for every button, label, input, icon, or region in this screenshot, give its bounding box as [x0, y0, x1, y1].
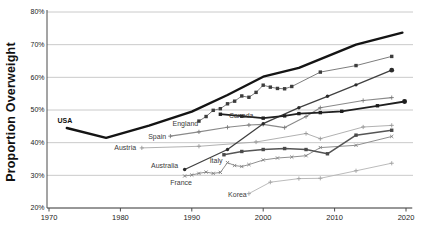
- y-tick-label-30: 30%: [30, 172, 44, 179]
- marker: [262, 122, 265, 125]
- x-tick-label-1970: 1970: [41, 213, 58, 222]
- marker: [233, 99, 236, 102]
- marker: [247, 96, 250, 99]
- label-spain: Spain: [148, 133, 166, 141]
- y-axis-title: Proportion Overweight: [4, 32, 18, 192]
- label-france: France: [170, 179, 192, 186]
- line-australia: [185, 70, 392, 169]
- y-tick-label-70: 70%: [30, 41, 44, 48]
- y-tick-label-40: 40%: [30, 139, 44, 146]
- marker: [276, 87, 279, 90]
- x-tick-label-1990: 1990: [183, 213, 200, 222]
- marker: [326, 95, 329, 98]
- y-tick-label-20: 20%: [30, 204, 44, 211]
- marker: [262, 83, 265, 86]
- label-usa: USA: [58, 117, 73, 124]
- marker: [262, 148, 265, 151]
- series-korea: [247, 161, 394, 196]
- label-korea: Korea: [228, 191, 247, 198]
- end-dot: [402, 99, 407, 104]
- label-australia: Australia: [151, 162, 178, 169]
- series-england: [197, 55, 393, 123]
- y-tick-label-60: 60%: [30, 74, 44, 81]
- marker: [183, 168, 186, 171]
- marker: [204, 115, 207, 118]
- marker: [390, 129, 393, 132]
- end-dot: [389, 68, 394, 73]
- label-italy: Italy: [210, 157, 223, 165]
- proportion-overweight-line-chart: 20%30%40%50%60%70%80%1970198019902000201…: [0, 0, 432, 226]
- series-usa: [67, 33, 403, 138]
- marker: [354, 64, 357, 67]
- marker: [390, 55, 393, 58]
- marker: [354, 133, 357, 136]
- marker: [240, 94, 243, 97]
- marker: [304, 148, 307, 151]
- line-usa: [67, 33, 403, 138]
- marker: [376, 104, 379, 107]
- x-tick-label-2020: 2020: [398, 213, 415, 222]
- marker: [262, 116, 265, 119]
- label-england: England: [173, 120, 199, 128]
- marker: [297, 106, 300, 109]
- x-tick-label-2010: 2010: [326, 213, 343, 222]
- marker: [226, 102, 229, 105]
- marker: [226, 148, 229, 151]
- marker: [219, 107, 222, 110]
- marker: [283, 87, 286, 90]
- series-australia: [183, 68, 394, 171]
- line-england: [199, 56, 392, 121]
- label-austria: Austria: [114, 144, 136, 151]
- label-canada: Canada: [229, 112, 254, 119]
- y-tick-label-80: 80%: [30, 8, 44, 15]
- marker: [212, 109, 215, 112]
- marker: [283, 147, 286, 150]
- marker: [340, 110, 343, 113]
- marker: [319, 70, 322, 73]
- marker: [269, 85, 272, 88]
- marker: [283, 114, 286, 117]
- marker: [222, 153, 225, 156]
- marker: [354, 83, 357, 86]
- x-tick-label-1980: 1980: [112, 213, 129, 222]
- x-tick-label-2000: 2000: [255, 213, 272, 222]
- chart-figure: Proportion Overweight 20%30%40%50%60%70%…: [0, 0, 432, 226]
- marker: [326, 152, 329, 155]
- marker: [254, 91, 257, 94]
- y-tick-label-50: 50%: [30, 106, 44, 113]
- marker: [219, 113, 222, 116]
- marker: [297, 112, 300, 115]
- marker: [319, 111, 322, 114]
- marker: [240, 150, 243, 153]
- marker: [290, 85, 293, 88]
